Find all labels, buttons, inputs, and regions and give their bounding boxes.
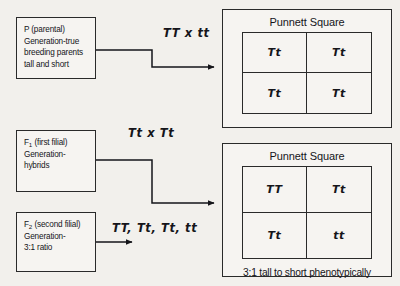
punnett-cell: Tt (307, 167, 371, 213)
f1-line-1: F1 (first filial) (24, 137, 89, 149)
f1-generation-box: F1 (first filial) Generation- hybrids (16, 130, 96, 192)
punnett-title-2: Punnett Square (223, 150, 391, 162)
arrow-f1-to-punnett (96, 160, 214, 203)
f2-line-3: 3:1 ratio (24, 242, 89, 254)
f1-line-2: Generation- (24, 149, 89, 161)
f2-line-1: F2 (second filial) (24, 219, 89, 231)
parental-cross-label: TT x tt (163, 26, 210, 40)
punnett-title-1: Punnett Square (223, 16, 391, 28)
punnett-square-panel-1: Punnett Square Tt Tt Tt Tt (222, 9, 392, 128)
punnett-cell: Tt (307, 33, 371, 73)
parental-generation-box: P (parental) Generation-true breeding pa… (16, 17, 96, 79)
punnett-cell: Tt (307, 73, 371, 113)
punnett-cell: tt (307, 213, 371, 259)
parental-line-4: tall and short (24, 59, 89, 71)
f1-label-rest: (first filial) (32, 138, 67, 147)
f2-generation-box: F2 (second filial) Generation- 3:1 ratio (16, 212, 96, 272)
punnett-square-diagram: P (parental) Generation-true breeding pa… (0, 0, 400, 286)
punnett-grid-2: TT Tt Tt tt (242, 166, 372, 259)
parental-line-3: breeding parents (24, 47, 89, 59)
f2-label-subscript: 2 (29, 223, 32, 230)
punnett-cell: Tt (243, 73, 307, 113)
punnett-square-panel-2: Punnett Square TT Tt Tt tt 3:1 tall to s… (222, 143, 392, 277)
phenotype-ratio-footnote: 3:1 tall to short phenotypically (223, 267, 391, 278)
punnett-cell: Tt (243, 213, 307, 259)
f2-label-rest: (second filial) (32, 220, 80, 229)
f2-genotype-ratio-label: TT, Tt, Tt, tt (112, 221, 197, 235)
f2-line-2: Generation- (24, 231, 89, 243)
f1-label-subscript: 1 (29, 141, 32, 148)
punnett-cell: TT (243, 167, 307, 213)
parental-line-1: P (parental) (24, 24, 89, 36)
arrow-parental-to-punnett (96, 50, 214, 67)
parental-line-2: Generation-true (24, 36, 89, 48)
f1-line-3: hybrids (24, 160, 89, 172)
f1-cross-label: Tt x Tt (128, 126, 174, 140)
punnett-grid-1: Tt Tt Tt Tt (242, 32, 372, 114)
punnett-cell: Tt (243, 33, 307, 73)
